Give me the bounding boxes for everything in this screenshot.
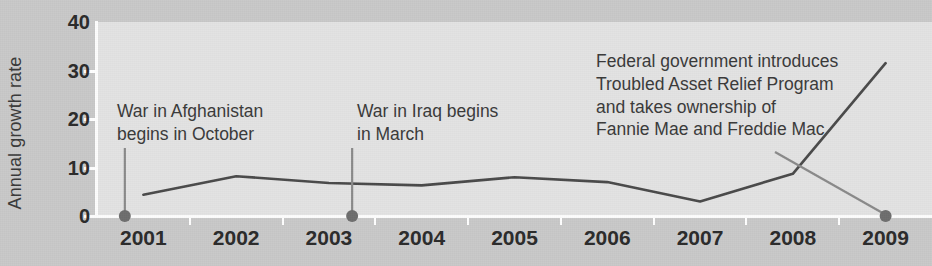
annotation-tarp-line2: Troubled Asset Relief Program [596,74,834,94]
x-tick-label-2003: 2003 [284,226,374,250]
y-tick-label-20: 20 [44,108,90,131]
annotation-afghanistan-line1: War in Afghanistan [117,101,263,121]
y-tick-label-40: 40 [44,11,90,34]
y-axis-title: Annual growth rate [0,0,30,266]
annotation-tarp-line1: Federal government introduces [596,51,838,71]
x-tick-label-2006: 2006 [562,226,652,250]
annotation-afghanistan: War in Afghanistanbegins in October [117,100,263,146]
x-tick-label-2002: 2002 [191,226,281,250]
annotation-tarp: Federal government introducesTroubled As… [596,50,838,141]
x-tick-label-2007: 2007 [655,226,745,250]
x-tick-label-2001: 2001 [98,226,188,250]
line-chart-figure: Annual growth rate 403020100 20012002200… [0,0,932,266]
y-tick-label-0: 0 [44,205,90,228]
annotation-iraq-line1: War in Iraq begins [357,101,498,121]
y-tick-label-10: 10 [44,156,90,179]
y-axis-tick-labels: 403020100 [28,0,90,266]
annotation-iraq: War in Iraq beginsin March [357,100,498,146]
x-tick-label-2009: 2009 [841,226,931,250]
annotation-tarp-line4: Fannie Mae and Freddie Mac [596,119,825,139]
x-tick-label-2004: 2004 [377,226,467,250]
marker-iraq [346,210,358,222]
marker-afghanistan [119,210,131,222]
leader-line-tarp [775,152,883,213]
x-tick-label-2005: 2005 [470,226,560,250]
marker-tarp [880,210,892,222]
annotation-iraq-line2: in March [357,124,424,144]
annotation-afghanistan-line2: begins in October [117,124,254,144]
x-tick-label-2008: 2008 [748,226,838,250]
y-tick-label-30: 30 [44,59,90,82]
annotation-tarp-line3: and takes ownership of [596,97,776,117]
